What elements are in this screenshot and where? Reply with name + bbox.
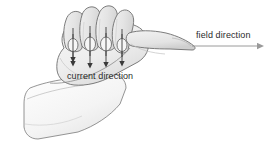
current-direction-label: current direction [67,71,133,81]
field-direction-label: field direction [196,30,251,40]
right-hand-rule-figure: current direction field direction [0,0,271,144]
hand-diagram-svg: current direction field direction [0,0,271,144]
